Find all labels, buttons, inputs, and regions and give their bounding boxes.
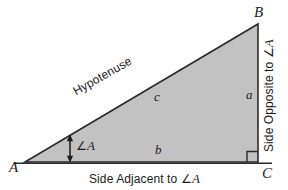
vertex-label-c: C bbox=[262, 166, 272, 181]
triangle-graphic bbox=[0, 0, 288, 190]
side-label-b: b bbox=[155, 143, 162, 156]
angle-a-letter: A bbox=[87, 138, 95, 153]
angle-symbol: ∠ bbox=[76, 139, 87, 153]
side-opposite-text: Side Opposite to ∠ bbox=[262, 47, 276, 152]
side-opposite-label: Side Opposite to ∠A bbox=[262, 39, 275, 152]
vertex-label-b: B bbox=[254, 5, 263, 20]
vertex-label-a: A bbox=[9, 160, 18, 175]
side-adjacent-label: Side Adjacent to ∠A bbox=[89, 172, 200, 185]
side-adjacent-letter: A bbox=[192, 171, 200, 186]
triangle-diagram: A B C a b c ∠A Hypotenuse Side Adjacent … bbox=[0, 0, 288, 190]
side-label-c: c bbox=[154, 90, 160, 103]
angle-a-label: ∠A bbox=[76, 139, 95, 152]
side-opposite-letter: A bbox=[261, 39, 276, 47]
side-label-a: a bbox=[246, 88, 253, 101]
side-adjacent-text: Side Adjacent to ∠ bbox=[89, 172, 192, 186]
triangle-shape bbox=[25, 24, 258, 162]
